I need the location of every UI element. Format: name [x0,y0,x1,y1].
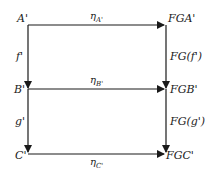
node-fga: FGA' [168,13,195,25]
node-a: A' [17,13,28,25]
label-f: f' [16,51,23,63]
node-fgb: FGB' [170,84,198,96]
label-eta-a: ηA' [90,10,103,26]
node-b: B' [14,84,25,96]
label-eta-b: ηB' [90,74,103,90]
label-eta-c: ηC' [90,156,103,172]
node-fgc: FGC' [166,150,194,162]
label-fgg: FG(g') [170,116,205,128]
label-g: g' [15,116,25,128]
label-fgf: FG(f') [170,51,202,63]
node-c: C' [15,150,26,162]
